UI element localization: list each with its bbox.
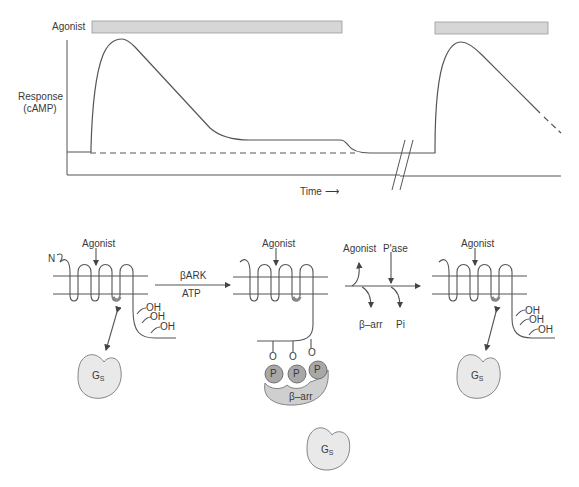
receptor-panel-1: [53, 248, 176, 350]
response-chart: [67, 21, 561, 190]
agonist-label: Agonist: [52, 22, 85, 32]
bark-label: βARK: [180, 271, 206, 281]
agonist-label-panel-3: Agonist: [461, 239, 494, 249]
agonist-label-panel-2: Agonist: [262, 239, 295, 249]
gs-label-sub: S: [479, 375, 484, 382]
gs-label-3: GS: [471, 371, 483, 381]
axis-break-2: [400, 140, 413, 190]
atp-label: ATP: [182, 289, 201, 299]
oh-label-p3-3: OH: [538, 325, 553, 335]
gs-label-sub: S: [100, 375, 105, 382]
x-axis-arrow-icon: ⟶: [325, 186, 339, 197]
x-axis-label: Time ⟶: [300, 187, 339, 197]
p-label-1: P: [270, 369, 277, 379]
beta-arr-label: β–arr: [289, 392, 313, 402]
response-curve-1: [67, 39, 540, 153]
gs-label-1: GS: [92, 371, 104, 381]
agonist-release-label: Agonist: [343, 244, 376, 254]
agonist-label-panel-1: Agonist: [82, 239, 115, 249]
agonist-bar-1: [92, 21, 342, 33]
gs-label-text: G: [321, 444, 329, 455]
beta-arr-release-label: β–arr: [359, 320, 383, 330]
response-curve-1-dashed-tail: [544, 117, 561, 133]
receptor-panel-3: [432, 248, 555, 350]
x-axis-label-text: Time: [300, 186, 322, 197]
o-label-2: O: [289, 352, 297, 362]
phosphatase-label: P'ase: [383, 244, 408, 254]
p-label-3: P: [314, 365, 321, 375]
o-label-1: O: [269, 352, 277, 362]
transition-2: [345, 252, 420, 307]
gs-label-sub: S: [329, 449, 334, 456]
oh-label-3: OH: [160, 322, 175, 332]
y-axis-label-line1: Response: [18, 92, 62, 102]
gs-label-text: G: [471, 370, 479, 381]
gs-label-text: G: [92, 370, 100, 381]
axis-break-1: [392, 140, 405, 190]
n-terminus-label: N: [48, 254, 55, 264]
o-label-3: O: [308, 348, 316, 358]
y-axis-label-line2: (cAMP): [18, 104, 62, 114]
p-label-2: P: [293, 369, 300, 379]
pi-label: Pi: [396, 320, 405, 330]
gs-label-2: GS: [321, 445, 333, 455]
receptor-panel-2: [233, 248, 328, 352]
agonist-bar-2: [435, 22, 548, 34]
